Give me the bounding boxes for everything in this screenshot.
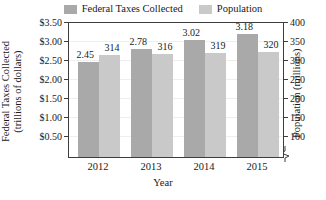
- bar-value-label-population-2014: 319: [211, 41, 226, 51]
- bar-chart-figure: Federal Taxes Collected Population $3.50…: [0, 0, 326, 200]
- bar-federal-taxes-2012[interactable]: 2.45: [78, 62, 99, 157]
- y-right-tickmark-5: [284, 117, 288, 118]
- y-left-tick-4: $1.50: [40, 94, 63, 104]
- bar-population-2012[interactable]: 314: [99, 55, 120, 157]
- y-right-tick-0: 400: [290, 18, 305, 28]
- bar-group-2014: 3.02 319: [183, 23, 227, 157]
- bar-group-2012: 2.45 314: [77, 23, 121, 157]
- y-axis-left-title-line2: (trillions of dollars): [11, 17, 23, 167]
- y-right-tickmark-3: [284, 79, 288, 80]
- bar-group-2015: 3.18 320: [236, 23, 280, 157]
- bar-value-label-population-2012: 314: [105, 43, 120, 53]
- legend-swatch-population: [199, 5, 212, 14]
- bar-value-label-population-2015: 320: [264, 40, 279, 50]
- bar-value-label-taxes-2014: 3.02: [183, 28, 201, 38]
- bar-population-2015[interactable]: 320: [258, 52, 279, 157]
- y-right-tickmark-6: [284, 136, 288, 137]
- y-right-tickmark-1: [284, 41, 288, 42]
- bar-value-label-taxes-2013: 2.78: [130, 37, 148, 47]
- bar-value-label-taxes-2015: 3.18: [236, 22, 254, 32]
- x-tick-2013: 2013: [141, 162, 162, 173]
- x-tick-2014: 2014: [194, 162, 215, 173]
- figure-caption: [0, 196, 326, 200]
- bar-federal-taxes-2015[interactable]: 3.18: [237, 34, 258, 157]
- bar-federal-taxes-2013[interactable]: 2.78: [131, 49, 152, 157]
- y-right-tickmark-4: [284, 98, 288, 99]
- plot-area: 2.45 314 2.78 316 3.02: [68, 22, 284, 158]
- bar-group-2013: 2.78 316: [130, 23, 174, 157]
- bar-federal-taxes-2014[interactable]: 3.02: [184, 40, 205, 157]
- bar-population-2014[interactable]: 319: [205, 53, 226, 157]
- y-left-tick-2: $2.50: [40, 56, 63, 66]
- y-axis-left-title-line1: Federal Taxes Collected: [0, 17, 11, 167]
- legend-item-population: Population: [199, 4, 263, 15]
- y-right-tickmark-2: [284, 60, 288, 61]
- bar-value-label-population-2013: 316: [158, 42, 173, 52]
- legend-label-federal-taxes: Federal Taxes Collected: [82, 4, 183, 15]
- bar-series-container: 2.45 314 2.78 316 3.02: [69, 23, 283, 157]
- x-axis-title: Year: [0, 178, 326, 189]
- y-right-tickmark-0: [284, 22, 288, 23]
- y-left-tick-6: $0.50: [40, 132, 63, 142]
- legend-item-federal-taxes: Federal Taxes Collected: [64, 4, 183, 15]
- y-axis-right-title: Population (millions): [292, 28, 303, 158]
- y-left-tick-0: $3.50: [40, 18, 63, 28]
- legend-label-population: Population: [217, 4, 263, 15]
- y-left-tick-5: $1.00: [40, 113, 63, 123]
- y-left-tick-3: $2.00: [40, 75, 63, 85]
- bar-value-label-taxes-2012: 2.45: [77, 50, 95, 60]
- bar-population-2013[interactable]: 316: [152, 54, 173, 157]
- x-tick-2015: 2015: [247, 162, 268, 173]
- x-tick-2012: 2012: [88, 162, 109, 173]
- y-axis-left-title: Federal Taxes Collected (trillions of do…: [0, 17, 23, 167]
- y-left-tick-1: $3.00: [40, 37, 63, 47]
- x-axis-tick-labels: 2012 2013 2014 2015: [68, 162, 284, 176]
